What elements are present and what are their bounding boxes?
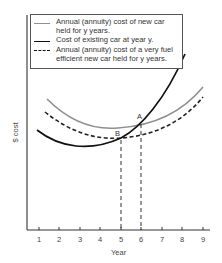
- x-tick-label: 5: [116, 235, 126, 244]
- x-tick-label: 3: [75, 235, 85, 244]
- y-axis-label: $ cost: [11, 121, 20, 145]
- legend-item-3-line2: efficient new car held for y years.: [56, 54, 181, 63]
- legend-item-1-line1: Annual (annuity) cost of new car: [56, 17, 181, 26]
- legend-swatch-dashed-line: [34, 50, 50, 51]
- legend-swatch-gray-line: [34, 23, 50, 24]
- legend-item-3: Annual (annuity) cost of a very fuel eff…: [56, 45, 181, 63]
- legend-item-2-line1: Cost of existing car at year y.: [56, 35, 181, 44]
- x-tick-label: 9: [198, 235, 208, 244]
- x-tick-label: 4: [95, 235, 105, 244]
- point-label-a: A: [137, 112, 142, 121]
- x-tick-label: 1: [34, 235, 44, 244]
- x-tick-label: 2: [54, 235, 64, 244]
- x-axis-label: Year: [111, 248, 126, 257]
- legend-item-3-line1: Annual (annuity) cost of a very fuel: [56, 45, 181, 54]
- x-tick-label: 7: [157, 235, 167, 244]
- legend-item-2: Cost of existing car at year y.: [56, 35, 181, 44]
- point-label-b: B: [115, 129, 120, 138]
- series-new-car-annuity: [47, 87, 203, 128]
- legend: Annual (annuity) cost of new car held fo…: [30, 14, 183, 69]
- x-tick-label: 6: [136, 235, 146, 244]
- x-tick-label: 8: [177, 235, 187, 244]
- legend-swatch-black-line: [34, 41, 50, 42]
- legend-item-1: Annual (annuity) cost of new car held fo…: [56, 17, 181, 35]
- series-fuel-efficient-annuity: [45, 97, 203, 138]
